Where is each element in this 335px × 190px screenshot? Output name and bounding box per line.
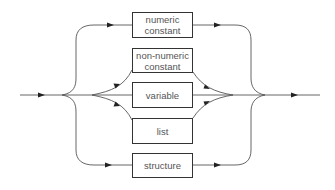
arrow-numeric-in-icon xyxy=(107,23,114,28)
arrow-list-out-icon xyxy=(204,101,211,106)
path-to-non-numeric-constant xyxy=(92,70,132,95)
arrow-exit-icon xyxy=(291,93,298,98)
arrow-structure-out-icon xyxy=(214,163,221,168)
arrow-non-numeric-out-icon xyxy=(204,85,211,90)
box-label: variable xyxy=(146,90,179,101)
arrow-structure-in-icon xyxy=(105,163,112,168)
path-from-list xyxy=(193,95,233,118)
arrow-entry-icon xyxy=(38,93,45,98)
path-to-numeric-constant xyxy=(62,25,132,95)
box-label: numeric constant xyxy=(145,14,181,36)
box-label: list xyxy=(157,126,169,137)
box-label: structure xyxy=(144,160,181,171)
box-list: list xyxy=(132,118,193,144)
arrow-numeric-out-icon xyxy=(214,23,221,28)
box-label: non-numeric constant xyxy=(136,50,189,72)
box-variable: variable xyxy=(132,82,193,108)
path-from-non-numeric-constant xyxy=(193,72,233,95)
box-structure: structure xyxy=(132,153,193,178)
box-numeric-constant: numeric constant xyxy=(132,12,193,38)
box-non-numeric-constant: non-numeric constant xyxy=(132,48,193,73)
path-to-list xyxy=(92,95,132,120)
path-to-structure xyxy=(62,95,132,165)
